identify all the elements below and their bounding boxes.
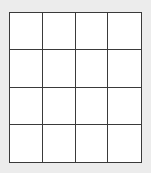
grid-cell[interactable] <box>108 13 141 50</box>
grid-cell[interactable] <box>10 50 43 87</box>
grid-cell[interactable] <box>10 125 43 162</box>
grid-cell[interactable] <box>10 88 43 125</box>
grid-board <box>9 12 142 163</box>
grid-cell[interactable] <box>76 88 109 125</box>
grid-cell[interactable] <box>76 125 109 162</box>
grid-cell[interactable] <box>108 50 141 87</box>
grid-cell[interactable] <box>76 13 109 50</box>
grid-cell[interactable] <box>108 88 141 125</box>
grid-cell[interactable] <box>76 50 109 87</box>
grid-cell[interactable] <box>43 50 76 87</box>
grid-cell[interactable] <box>43 88 76 125</box>
grid-cell[interactable] <box>10 13 43 50</box>
grid-cell[interactable] <box>108 125 141 162</box>
grid-cell[interactable] <box>43 13 76 50</box>
grid-cell[interactable] <box>43 125 76 162</box>
